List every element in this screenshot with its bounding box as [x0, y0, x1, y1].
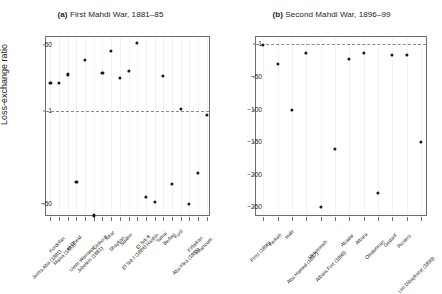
- gridline: [292, 37, 293, 215]
- y-axis-tick-label: −100: [247, 105, 262, 112]
- x-axis-tick: [172, 217, 173, 221]
- data-point: [57, 81, 60, 84]
- gridline: [181, 37, 182, 215]
- y-axis-tick-label: 1: [48, 106, 52, 113]
- x-axis-category-label: Suakin: [118, 231, 133, 246]
- gridline: [120, 37, 121, 215]
- data-point: [196, 172, 199, 175]
- x-axis-tick: [111, 217, 112, 221]
- x-axis-category-label: Korti: [173, 227, 184, 238]
- data-point: [362, 51, 365, 54]
- data-point: [205, 114, 208, 117]
- x-axis-tick: [335, 217, 336, 221]
- gridline: [50, 37, 51, 215]
- gridline: [349, 37, 350, 215]
- y-axis-tick-label: −50: [251, 73, 262, 80]
- gridline: [68, 37, 69, 215]
- y-axis-tick-label: −200: [247, 170, 262, 177]
- x-axis-tick: [349, 217, 350, 221]
- x-axis-tick: [378, 217, 379, 221]
- data-point: [83, 58, 86, 61]
- x-axis-tick: [407, 217, 408, 221]
- gridline: [172, 37, 173, 215]
- x-axis-tick: [421, 217, 422, 221]
- x-axis-tick: [102, 217, 103, 221]
- y-axis-tick-label: −250: [247, 203, 262, 210]
- y-axis-tick-label: 1: [258, 40, 262, 47]
- gridline: [378, 37, 379, 215]
- x-axis-category-label: Abadar: [339, 232, 355, 248]
- gridline: [59, 37, 60, 215]
- gridline: [102, 37, 103, 215]
- x-axis-tick: [263, 217, 264, 221]
- gridline: [207, 37, 208, 215]
- x-axis-tick: [306, 217, 307, 221]
- gridline: [129, 37, 130, 215]
- data-point: [419, 141, 422, 144]
- y-axis-tick-label: −50: [41, 200, 52, 207]
- x-axis-category-label: Tokar: [102, 229, 115, 242]
- gridline: [111, 37, 112, 215]
- data-point: [75, 180, 78, 183]
- gridline: [407, 37, 408, 215]
- x-axis-tick: [76, 217, 77, 221]
- x-axis-category-label: Omdurman: [364, 238, 386, 260]
- x-axis-category-label: Rosiers: [396, 232, 412, 248]
- x-axis-tick: [198, 217, 199, 221]
- data-point: [276, 63, 279, 66]
- data-point: [290, 108, 293, 111]
- gridline: [189, 37, 190, 215]
- reference-line: [46, 111, 209, 112]
- reference-line: [256, 44, 426, 45]
- panel-b-title: (b) Second Mahdi War, 1896–99: [221, 9, 442, 20]
- gridline: [263, 37, 264, 215]
- panel-first-mahdi-war: (a) First Mahdi War, 1881–85 Loss-exchan…: [0, 0, 221, 284]
- plot-area-a: [45, 36, 210, 216]
- data-point: [391, 53, 394, 56]
- x-axis-category-label: Hafir: [284, 228, 296, 240]
- x-axis-tick: [129, 217, 130, 221]
- x-axis-category-label: El Teb I (1884): [120, 243, 147, 270]
- x-axis-tick: [59, 217, 60, 221]
- x-axis-tick: [94, 217, 95, 221]
- data-point: [144, 195, 147, 198]
- panel-b-tag: (b): [272, 10, 283, 19]
- plot-area-b: [255, 36, 427, 216]
- data-point: [170, 183, 173, 186]
- data-point: [348, 57, 351, 60]
- data-point: [118, 76, 121, 79]
- x-axis-tick: [68, 217, 69, 221]
- panel-a-title-text: First Mahdi War, 1881–85: [70, 10, 164, 19]
- x-axis-tick: [278, 217, 279, 221]
- data-point: [188, 203, 191, 206]
- x-axis-tick: [155, 217, 156, 221]
- x-axis-tick: [163, 217, 164, 221]
- x-axis-tick: [292, 217, 293, 221]
- x-axis-category-label: Um Dibaykarat (1899): [397, 255, 436, 294]
- data-point: [49, 81, 52, 84]
- y-axis-tick: [253, 44, 256, 45]
- gridline: [321, 37, 322, 215]
- data-point: [127, 70, 130, 73]
- data-point: [376, 191, 379, 194]
- data-point: [101, 71, 104, 74]
- data-point: [110, 49, 113, 52]
- data-point: [153, 200, 156, 203]
- gridline: [335, 37, 336, 215]
- x-axis-tick: [321, 217, 322, 221]
- x-axis-tick: [189, 217, 190, 221]
- gridline: [392, 37, 393, 215]
- y-axis-tick-label: 50: [45, 41, 52, 48]
- gridline: [94, 37, 95, 215]
- data-point: [305, 51, 308, 54]
- gridline: [85, 37, 86, 215]
- data-point: [136, 42, 139, 45]
- x-axis-tick: [146, 217, 147, 221]
- x-axis-category-label: Ferkeh: [267, 231, 282, 246]
- gridline: [163, 37, 164, 215]
- gridline: [198, 37, 199, 215]
- panel-b-title-text: Second Mahdi War, 1896–99: [285, 10, 390, 19]
- gridline: [76, 37, 77, 215]
- data-point: [405, 53, 408, 56]
